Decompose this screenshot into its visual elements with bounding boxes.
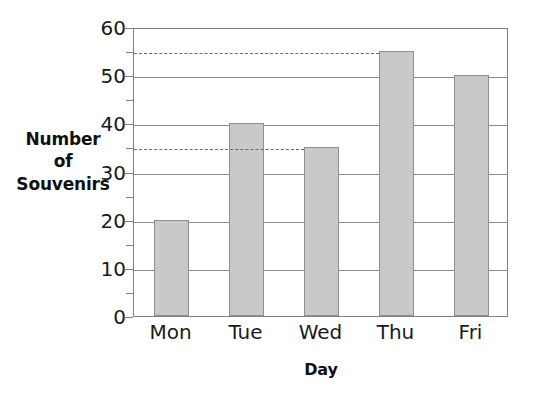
y-tick-label-30: 30	[80, 163, 126, 183]
y-tick-major-60	[124, 28, 133, 29]
y-tick-label-10: 10	[80, 259, 126, 279]
bar-tue	[229, 123, 264, 316]
bar-wed	[304, 147, 339, 316]
y-tick-major-20	[124, 221, 133, 222]
y-tick-minor-55	[126, 52, 133, 53]
y-axis-tick-labels: 0102030405060	[78, 28, 126, 317]
gridline-40	[134, 125, 507, 126]
y-tick-minor-25	[126, 197, 133, 198]
y-tick-major-0	[124, 317, 133, 318]
y-tick-minor-15	[126, 245, 133, 246]
y-tick-label-50: 50	[80, 66, 126, 86]
x-axis-tick-labels: MonTueWedThuFri	[133, 322, 508, 354]
y-tick-major-10	[124, 269, 133, 270]
y-tick-major-30	[124, 173, 133, 174]
reference-line-35	[134, 149, 304, 150]
x-tick-label-wed: Wed	[299, 322, 343, 342]
x-tick-label-fri: Fri	[459, 322, 483, 342]
y-tick-major-50	[124, 76, 133, 77]
x-axis-title: Day	[132, 360, 510, 379]
bar-chart: Number of Souvenirs 0102030405060 MonTue…	[0, 0, 533, 397]
y-tick-label-60: 60	[80, 18, 126, 38]
bar-fri	[454, 75, 489, 316]
plot-inner	[134, 29, 507, 316]
bar-mon	[154, 220, 189, 316]
x-tick-label-tue: Tue	[228, 322, 262, 342]
y-tick-minor-35	[126, 148, 133, 149]
y-tick-label-40: 40	[80, 114, 126, 134]
y-tick-minor-5	[126, 293, 133, 294]
y-tick-label-20: 20	[80, 211, 126, 231]
plot-area	[133, 28, 508, 317]
bar-thu	[379, 51, 414, 316]
reference-line-55	[134, 53, 379, 54]
x-tick-label-mon: Mon	[149, 322, 191, 342]
x-tick-label-thu: Thu	[377, 322, 415, 342]
y-tick-minor-45	[126, 100, 133, 101]
gridline-50	[134, 77, 507, 78]
y-tick-major-40	[124, 124, 133, 125]
y-tick-label-0: 0	[80, 307, 126, 327]
